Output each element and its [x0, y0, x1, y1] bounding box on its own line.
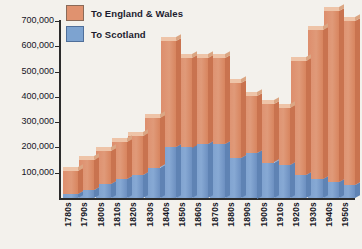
bar-side-face [127, 176, 132, 198]
bar-side-face [225, 55, 230, 144]
y-axis-tick-label: 100,000 [2, 168, 54, 177]
bar-top-face [79, 156, 94, 160]
x-axis-tick-label: 1920s [291, 202, 306, 227]
bar-side-face [111, 181, 116, 198]
bar-top-face [308, 26, 323, 30]
bar-side-face [274, 102, 279, 163]
bar-side-face [355, 18, 360, 185]
bar-side-face [192, 55, 197, 147]
bar-top-face [63, 167, 78, 171]
bar-side-face [78, 169, 83, 194]
bar-side-face [143, 173, 148, 198]
bar-side-face [94, 157, 99, 190]
bar-face [63, 171, 78, 194]
bar-side-face [323, 176, 328, 198]
bar-side-face [176, 39, 181, 148]
migration-stacked-bar-chart: To England & Wales To Scotland 100,00020… [0, 0, 362, 249]
bar-side-face [127, 140, 132, 179]
x-axis-tick-label: 1780s [63, 202, 78, 227]
y-axis-tick-label: 500,000 [2, 67, 54, 76]
bar-side-face [257, 93, 262, 153]
plot-area [61, 14, 357, 200]
bar-side-face [323, 27, 328, 179]
bar-side-face [160, 116, 165, 168]
x-axis-tick-label: 1860s [193, 202, 208, 227]
y-axis-tick-label: 200,000 [2, 142, 54, 151]
bar-top-face [291, 57, 306, 61]
bar-side-face [176, 145, 181, 198]
bar-segment-england-wales [63, 171, 78, 194]
x-axis-tick-label: 1950s [340, 202, 355, 227]
bar-side-face [111, 149, 116, 185]
bar-side-face [208, 55, 213, 144]
x-axis-tick-label: 1800s [96, 202, 111, 227]
bar-side-face [290, 162, 295, 198]
x-axis-tick-label: 1810s [112, 202, 127, 227]
bar-side-face [143, 133, 148, 175]
bar-segment-scotland [63, 194, 78, 198]
bar-side-face [257, 150, 262, 198]
bar-face [63, 194, 78, 198]
y-axis-tick-label: 600,000 [2, 41, 54, 50]
x-axis-tick-label: 1880s [226, 202, 241, 227]
bar-side-face [306, 59, 311, 175]
y-axis-labels: 100,000200,000300,000400,000500,000600,0… [0, 0, 54, 249]
x-axis-tick-label: 1930s [308, 202, 323, 227]
bar-top-face [324, 7, 339, 11]
bar-top-face [145, 114, 160, 118]
x-axis-tick-label: 1940s [324, 202, 339, 227]
bar-side-face [290, 106, 295, 166]
bar-side-face [306, 173, 311, 198]
bar-side-face [355, 183, 360, 198]
bar-side-face [241, 155, 246, 198]
bar-top-face [96, 147, 111, 151]
x-axis-tick-label: 1830s [145, 202, 160, 227]
bar-side-face [339, 179, 344, 198]
bar-side-face [274, 160, 279, 198]
y-axis-tick-label: 700,000 [2, 16, 54, 25]
bar-side-face [241, 80, 246, 157]
y-axis-tick-label: 400,000 [2, 92, 54, 101]
bar-top-face [161, 37, 176, 41]
x-axis-labels: 1780s1790s1800s1810s1820s1830s1840s1850s… [61, 202, 357, 249]
bar-top-face [112, 138, 127, 142]
x-axis-tick-label: 1840s [161, 202, 176, 227]
x-axis-tick-label: 1820s [128, 202, 143, 227]
x-axis-tick-label: 1890s [242, 202, 257, 227]
y-axis-tick-label: 300,000 [2, 117, 54, 126]
bar-side-face [208, 141, 213, 198]
bar-side-face [192, 145, 197, 198]
x-axis-tick-label: 1870s [210, 202, 225, 227]
x-axis-tick-label: 1910s [275, 202, 290, 227]
x-axis-tick-label: 1850s [177, 202, 192, 227]
bar-column [63, 171, 78, 198]
bar-side-face [225, 141, 230, 198]
x-axis-tick-label: 1790s [79, 202, 94, 227]
bar-side-face [160, 165, 165, 198]
bar-side-face [339, 8, 344, 181]
x-axis-tick-label: 1900s [259, 202, 274, 227]
